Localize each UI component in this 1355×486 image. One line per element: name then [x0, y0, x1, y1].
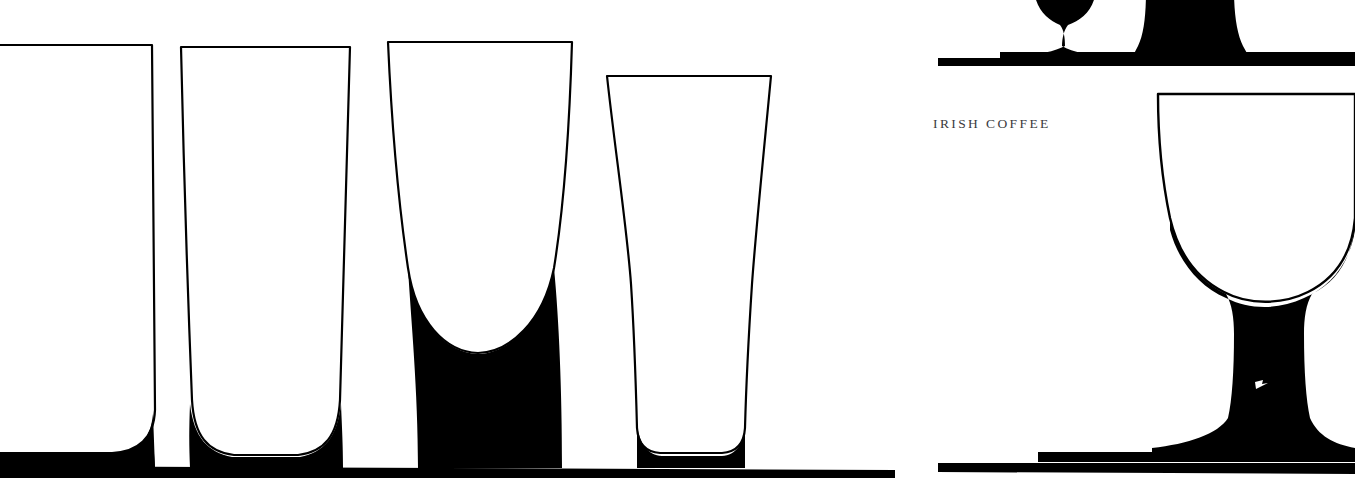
right-page-panel [938, 0, 1355, 486]
glass-irish-coffee [1038, 94, 1355, 462]
glass-1-outline [0, 45, 155, 453]
glass-2-outline [181, 47, 350, 455]
glass-tall-tumbler [181, 47, 350, 468]
page-gutter [897, 0, 938, 486]
glassware-plate-page: IRISH COFFEE [0, 0, 1355, 486]
glass-7-bowl-outline [1158, 94, 1355, 302]
left-plate-illustration [0, 0, 897, 486]
left-page-panel [0, 0, 897, 486]
right-plate-illustration [938, 0, 1355, 486]
glass-footed-pint [607, 76, 771, 468]
glass-highball-tumbler [0, 45, 155, 468]
caption-irish-coffee: IRISH COFFEE [933, 117, 1051, 131]
right-panel-ground-line [938, 463, 1355, 474]
glass-tulip-pilsner [388, 42, 572, 468]
glass-4-outline [607, 76, 771, 453]
right-panel-shelf-line [938, 52, 1355, 66]
